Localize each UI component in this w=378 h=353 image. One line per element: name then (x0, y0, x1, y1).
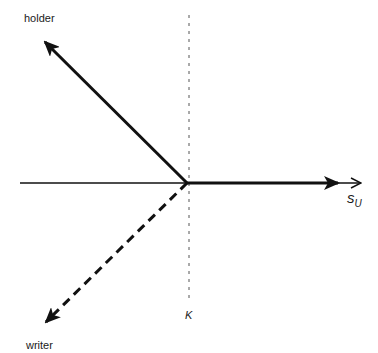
payoff-diagram: holder writer K sU (0, 0, 378, 353)
strike-label: K (185, 309, 192, 321)
axis-label-main: s (347, 189, 355, 206)
writer-label: writer (26, 339, 53, 351)
axis-label-subscript: U (355, 198, 362, 209)
writer-payoff-arrow (46, 183, 187, 322)
holder-label: holder (24, 12, 55, 24)
holder-payoff-arrow (45, 42, 187, 183)
axis-label: sU (347, 189, 362, 209)
diagram-svg (0, 0, 378, 353)
